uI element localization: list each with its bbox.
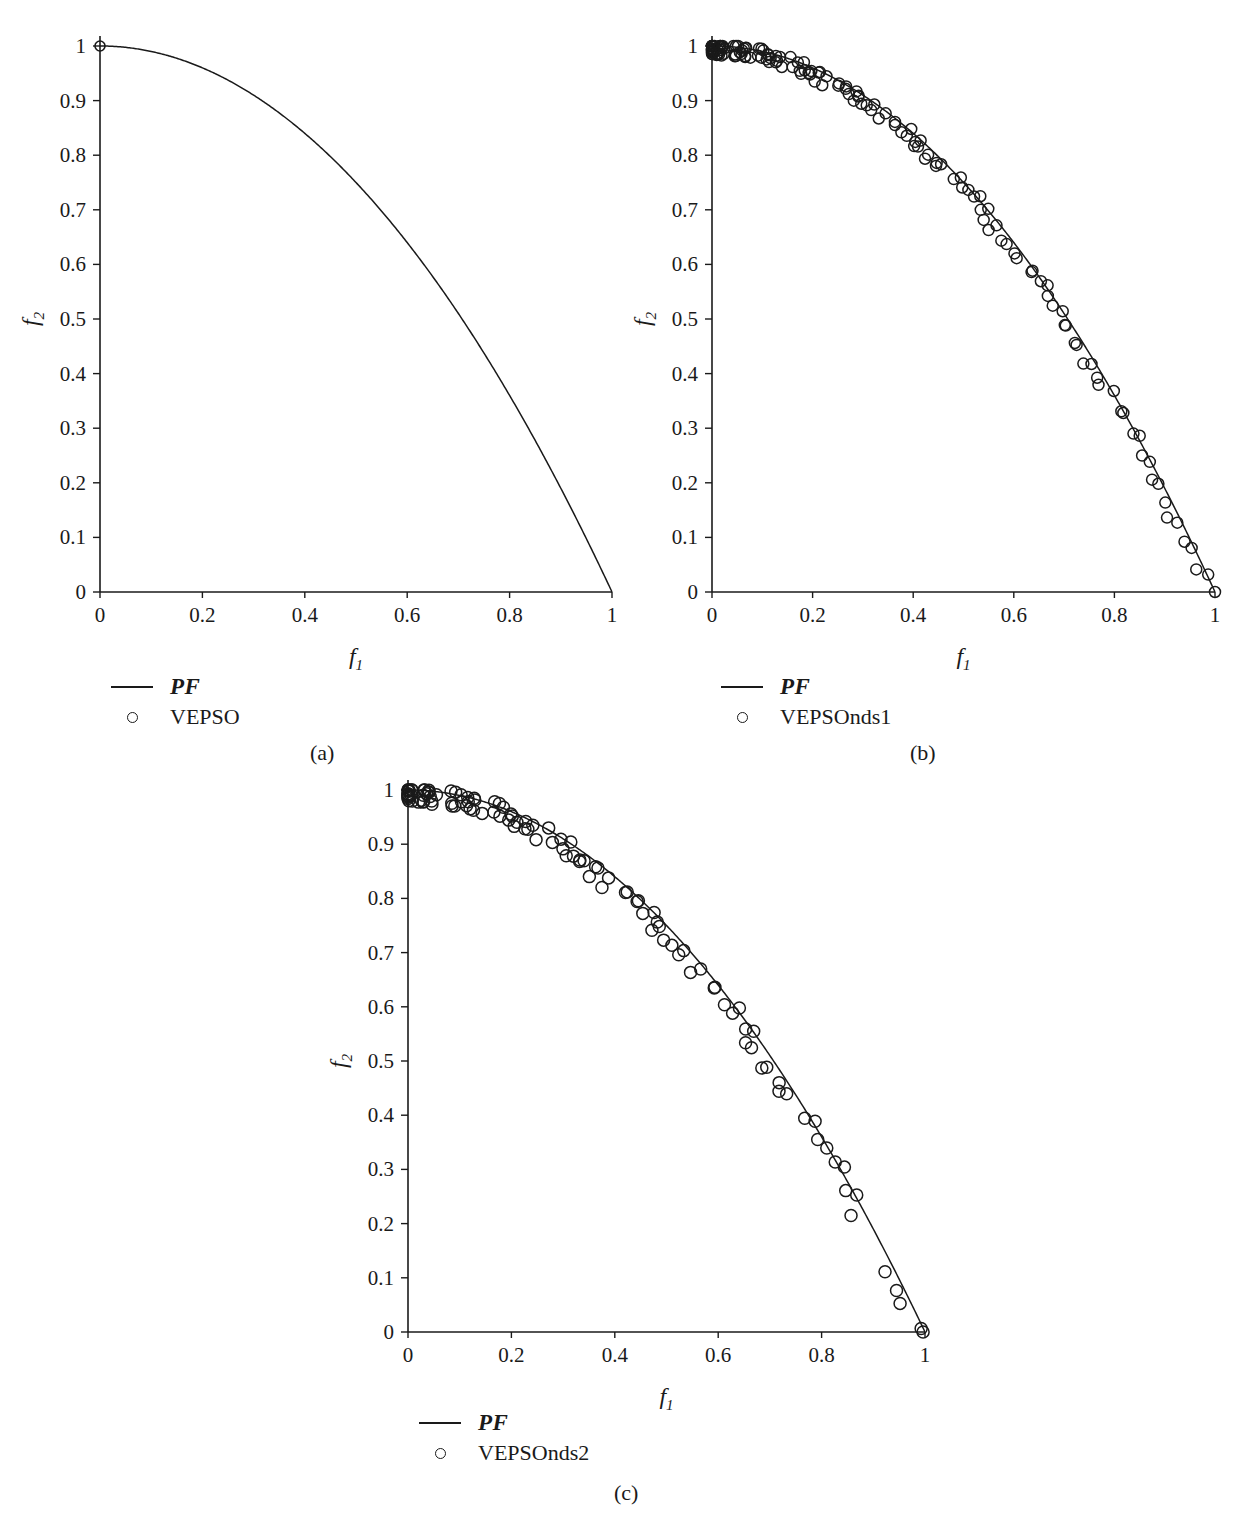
y-tick-label: 0 xyxy=(76,580,87,604)
y-tick-label: 0.7 xyxy=(368,941,394,965)
panel-c: 00.20.40.60.8100.10.20.30.40.50.60.70.80… xyxy=(296,740,956,1529)
plot-a: 00.20.40.60.8100.10.20.30.40.50.60.70.80… xyxy=(0,0,660,700)
y-axis-title: f2 xyxy=(629,311,659,326)
y-tick-label: 1 xyxy=(384,778,395,802)
y-tick-label: 0.7 xyxy=(60,198,86,222)
plot-b: 00.20.40.60.8100.10.20.30.40.50.60.70.80… xyxy=(600,0,1251,700)
y-tick-label: 0.4 xyxy=(368,1103,395,1127)
caption-c: (c) xyxy=(614,1480,638,1506)
legend-row-pf: PF xyxy=(710,672,891,702)
y-tick-label: 0.2 xyxy=(60,471,86,495)
y-tick-label: 0.6 xyxy=(368,995,394,1019)
y-tick-label: 0.2 xyxy=(672,471,698,495)
plot-c: 00.20.40.60.8100.10.20.30.40.50.60.70.80… xyxy=(296,740,956,1440)
x-tick-label: 0.8 xyxy=(808,1343,834,1367)
line-swatch-icon xyxy=(710,686,774,688)
y-tick-label: 0.5 xyxy=(368,1049,394,1073)
circle-marker-icon xyxy=(710,712,774,723)
y-tick-label: 0.7 xyxy=(672,198,698,222)
legend-label-pf: PF xyxy=(164,671,200,703)
solution-markers xyxy=(402,784,929,1338)
x-tick-label: 0.4 xyxy=(602,1343,629,1367)
y-axis-title: f2 xyxy=(17,311,47,326)
x-tick-label: 0.8 xyxy=(496,603,522,627)
x-axis-title: f1 xyxy=(956,643,970,673)
x-tick-label: 0.6 xyxy=(394,603,420,627)
x-tick-label: 0.2 xyxy=(498,1343,524,1367)
x-tick-label: 0 xyxy=(707,603,718,627)
y-tick-label: 0 xyxy=(384,1320,395,1344)
y-tick-label: 0.4 xyxy=(60,362,87,386)
panel-b: 00.20.40.60.8100.10.20.30.40.50.60.70.80… xyxy=(600,0,1251,790)
y-tick-label: 0.3 xyxy=(368,1157,394,1181)
y-tick-label: 0.3 xyxy=(672,416,698,440)
line-swatch-icon xyxy=(408,1422,472,1424)
pareto-front-curve xyxy=(100,46,612,592)
legend-c: PF VEPSOnds2 xyxy=(408,1408,589,1468)
y-tick-label: 0.1 xyxy=(368,1266,394,1290)
y-tick-label: 0.5 xyxy=(672,307,698,331)
x-tick-label: 1 xyxy=(1210,603,1221,627)
legend-label-algorithm: VEPSOnds2 xyxy=(472,1438,589,1468)
x-tick-label: 1 xyxy=(920,1343,931,1367)
x-tick-label: 0.6 xyxy=(1001,603,1027,627)
y-tick-label: 0.8 xyxy=(368,886,394,910)
legend-row-algorithm: VEPSO xyxy=(100,702,240,732)
y-tick-label: 0.5 xyxy=(60,307,86,331)
circle-marker-icon xyxy=(408,1448,472,1459)
legend-a: PF VEPSO xyxy=(100,672,240,732)
legend-label-pf: PF xyxy=(472,1407,508,1439)
y-tick-label: 0.9 xyxy=(60,89,86,113)
x-tick-label: 0 xyxy=(95,603,106,627)
legend-row-algorithm: VEPSOnds2 xyxy=(408,1438,589,1468)
y-tick-label: 0.8 xyxy=(672,143,698,167)
pareto-front-curve xyxy=(712,46,1215,592)
y-tick-label: 0.4 xyxy=(672,362,699,386)
y-tick-label: 0.1 xyxy=(672,525,698,549)
legend-row-algorithm: VEPSOnds1 xyxy=(710,702,891,732)
y-tick-label: 0.3 xyxy=(60,416,86,440)
line-swatch-icon xyxy=(100,686,164,688)
x-tick-label: 0.2 xyxy=(189,603,215,627)
y-tick-label: 0.6 xyxy=(60,252,86,276)
x-tick-label: 0.4 xyxy=(292,603,319,627)
y-tick-label: 1 xyxy=(76,34,87,58)
x-tick-label: 0.4 xyxy=(900,603,927,627)
y-tick-label: 1 xyxy=(688,34,699,58)
y-tick-label: 0.1 xyxy=(60,525,86,549)
x-tick-label: 0.6 xyxy=(705,1343,731,1367)
legend-row-pf: PF xyxy=(100,672,240,702)
legend-label-algorithm: VEPSOnds1 xyxy=(774,702,891,732)
x-tick-label: 0.2 xyxy=(799,603,825,627)
x-tick-label: 0 xyxy=(403,1343,414,1367)
y-tick-label: 0.2 xyxy=(368,1212,394,1236)
panel-a: 00.20.40.60.8100.10.20.30.40.50.60.70.80… xyxy=(0,0,660,790)
circle-marker-icon xyxy=(100,712,164,723)
y-axis-title: f2 xyxy=(325,1053,355,1068)
x-tick-label: 0.8 xyxy=(1101,603,1127,627)
pareto-front-curve xyxy=(408,790,925,1332)
x-axis-title: f1 xyxy=(659,1383,673,1413)
y-tick-label: 0.9 xyxy=(672,89,698,113)
y-tick-label: 0.6 xyxy=(672,252,698,276)
legend-row-pf: PF xyxy=(408,1408,589,1438)
y-tick-label: 0 xyxy=(688,580,699,604)
y-tick-label: 0.9 xyxy=(368,832,394,856)
legend-b: PF VEPSOnds1 xyxy=(710,672,891,732)
legend-label-pf: PF xyxy=(774,671,810,703)
legend-label-algorithm: VEPSO xyxy=(164,702,240,732)
y-tick-label: 0.8 xyxy=(60,143,86,167)
solution-markers xyxy=(707,41,1221,598)
x-axis-title: f1 xyxy=(349,643,363,673)
